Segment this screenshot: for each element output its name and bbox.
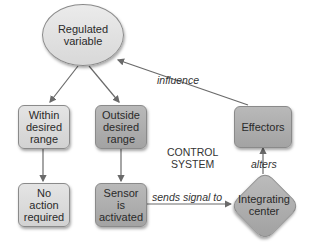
effectors-node: Effectors	[234, 106, 292, 148]
regulated-variable-node: Regulated variable	[42, 4, 124, 66]
integrating-center-label: Integrating center	[227, 168, 301, 242]
outside-range-line1: Outside	[102, 109, 140, 121]
sensor-line3: activated	[99, 211, 143, 223]
within-range-node: Within desired range	[18, 105, 70, 149]
outside-range-line3: range	[107, 133, 135, 145]
sends-signal-label: sends signal to	[152, 191, 222, 203]
influence-label: influence	[157, 74, 199, 86]
no-action-line3: required	[24, 211, 64, 223]
alters-label: alters	[251, 158, 277, 170]
integrating-line2: center	[249, 205, 280, 217]
regulated-variable-line1: Regulated	[58, 23, 108, 35]
control-system-line1: CONTROL	[167, 146, 218, 158]
sensor-line2: is	[117, 199, 125, 211]
integrating-center-node: Integrating center	[227, 168, 301, 242]
regulated-variable-line2: variable	[64, 35, 103, 47]
no-action-node: No action required	[18, 183, 70, 227]
control-system-title: CONTROL SYSTEM	[167, 146, 218, 170]
effectors-label: Effectors	[241, 121, 284, 133]
within-range-line1: Within	[29, 109, 60, 121]
sensor-node: Sensor is activated	[95, 183, 147, 227]
within-range-line2: desired	[26, 121, 62, 133]
control-system-line2: SYSTEM	[171, 158, 214, 170]
no-action-line2: action	[29, 199, 58, 211]
outside-range-line2: desired	[103, 121, 139, 133]
outside-range-node: Outside desired range	[95, 105, 147, 149]
within-range-line3: range	[30, 133, 58, 145]
no-action-line1: No	[37, 187, 51, 199]
integrating-line1: Integrating	[238, 193, 290, 205]
sensor-line1: Sensor	[104, 187, 139, 199]
